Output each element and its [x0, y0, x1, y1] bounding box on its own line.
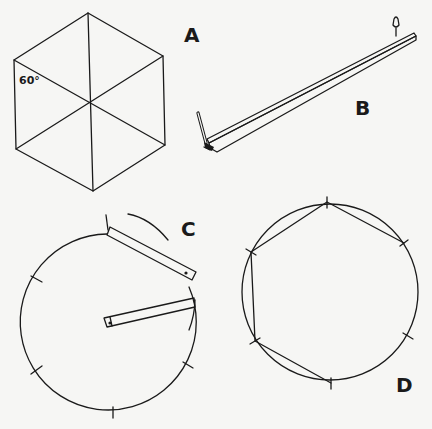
strip-top-face	[207, 33, 416, 143]
center-pin-dot	[108, 321, 111, 324]
panel-d-inscribed-hexagon: D	[242, 197, 418, 397]
pencil-mark	[106, 215, 108, 230]
panel-label-d: D	[396, 373, 413, 397]
panel-label-a: A	[184, 23, 200, 47]
panel-c-stepping-circle: C	[20, 214, 196, 418]
circle-arc	[20, 234, 196, 410]
panel-label-c: C	[181, 217, 196, 241]
tick-mark	[31, 276, 42, 282]
strip-edge	[209, 36, 416, 152]
panel-b-strip-compass: B	[198, 17, 416, 152]
pin-dot	[184, 271, 187, 274]
hexagon-chords	[251, 202, 404, 383]
pencil-icon	[393, 17, 399, 36]
circle	[242, 204, 418, 380]
pivot-pin-icon	[198, 113, 214, 151]
pencil-swing-arc	[128, 214, 168, 240]
diagram-canvas: 60° A B	[0, 0, 432, 429]
compass-strip-radius	[104, 298, 195, 327]
angle-label: 60°	[19, 74, 40, 87]
panel-label-b: B	[355, 96, 370, 120]
panel-a-hexagon: 60° A	[14, 13, 200, 191]
